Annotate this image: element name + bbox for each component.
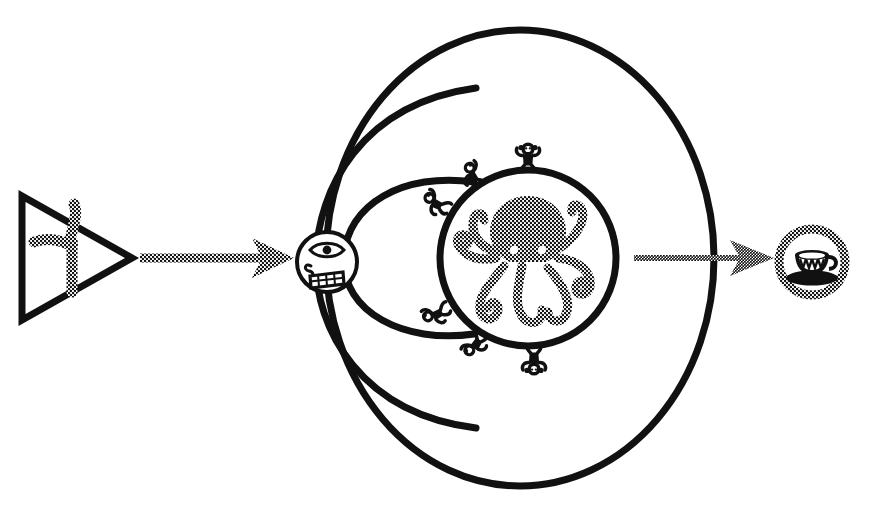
face-circle-node[interactable] bbox=[297, 232, 357, 292]
octopus-sphere-node[interactable] bbox=[440, 170, 616, 346]
illustration bbox=[0, 0, 874, 520]
diagram-canvas bbox=[0, 0, 874, 520]
cup-rim-inner bbox=[799, 252, 825, 258]
face-pupil bbox=[323, 246, 332, 255]
face-mouth bbox=[310, 272, 344, 288]
propeller-hub bbox=[64, 236, 78, 250]
